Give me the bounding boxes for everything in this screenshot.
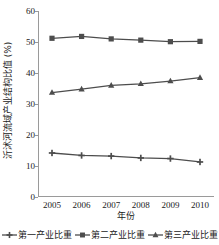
y-tick-label: 40: [26, 69, 35, 78]
x-axis-title: 年份: [38, 209, 214, 222]
series-line: [52, 153, 200, 162]
y-tick-mark: [35, 104, 38, 105]
data-point-marker-plus: [138, 155, 144, 161]
y-tick-label: 50: [26, 38, 35, 47]
plot-area: 0102030405060 200520062007200820092010: [38, 11, 214, 197]
legend-marker-square-icon: [75, 230, 90, 240]
data-point-marker-square: [197, 39, 202, 44]
y-axis-title-text: 沂沭河流域产业结构比值 (%): [2, 41, 15, 158]
chart-legend: 第一产业比重第二产业比重第三产业比重: [0, 226, 219, 243]
data-point-marker-plus: [78, 152, 84, 158]
y-tick-label: 30: [26, 100, 35, 109]
data-point-marker-plus: [6, 231, 12, 237]
legend-label: 第三产业比重: [164, 228, 218, 241]
x-axis-line: [38, 196, 214, 197]
y-tick-mark: [35, 11, 38, 12]
series-layer: [38, 11, 214, 197]
data-point-marker-triangle: [197, 74, 203, 80]
legend-marker-triangle-icon: [148, 230, 163, 240]
y-axis-line: [38, 11, 39, 197]
legend-label: 第一产业比重: [18, 228, 72, 241]
series-2: [49, 34, 202, 44]
data-point-marker-plus: [108, 153, 114, 159]
data-point-marker-plus: [49, 150, 55, 156]
y-tick-mark: [35, 42, 38, 43]
y-tick-mark: [35, 73, 38, 74]
legend-entry-1[interactable]: 第一产业比重: [2, 228, 72, 241]
data-point-marker-square: [80, 232, 85, 237]
chart-container: 沂沭河流域产业结构比值 (%) 0102030405060 2005200620…: [0, 0, 219, 245]
y-tick-mark: [35, 135, 38, 136]
legend-entry-2[interactable]: 第二产业比重: [75, 228, 145, 241]
legend-label: 第二产业比重: [91, 228, 145, 241]
series-1: [49, 150, 203, 165]
y-tick-label: 60: [26, 7, 35, 16]
y-tick-mark: [35, 166, 38, 167]
data-point-marker-plus: [197, 159, 203, 165]
y-tick-label: 20: [26, 131, 35, 140]
legend-entry-3[interactable]: 第三产业比重: [148, 228, 218, 241]
series-3: [49, 74, 203, 94]
data-point-marker-square: [79, 34, 84, 39]
data-point-marker-square: [138, 38, 143, 43]
data-point-marker-square: [49, 36, 54, 41]
legend-marker-plus-icon: [2, 230, 17, 240]
data-point-marker-plus: [167, 155, 173, 161]
data-point-marker-square: [109, 36, 114, 41]
data-point-marker-square: [168, 39, 173, 44]
series-line: [52, 78, 200, 93]
series-line: [52, 36, 200, 41]
y-axis-title: 沂沭河流域产业结构比值 (%): [0, 0, 16, 200]
y-tick-label: 10: [26, 162, 35, 171]
y-tick-mark: [35, 197, 38, 198]
